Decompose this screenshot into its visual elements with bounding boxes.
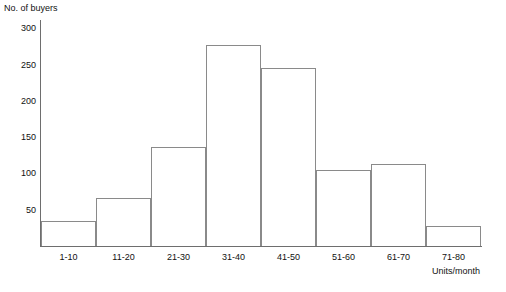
x-axis-tick-label: 61-70 <box>371 252 426 263</box>
x-axis-title: Units/month <box>400 266 480 277</box>
y-axis-tick-label: 300 <box>2 23 36 33</box>
y-axis-tick-label: 50 <box>2 205 36 215</box>
plot-area <box>41 20 481 246</box>
x-axis-tick-label: 31-40 <box>206 252 261 263</box>
bar <box>41 221 96 246</box>
bar <box>151 147 206 246</box>
x-axis-tick-label: 41-50 <box>261 252 316 263</box>
bar <box>206 45 261 246</box>
bar <box>261 68 316 246</box>
x-axis-line <box>40 246 482 247</box>
y-axis-tick-label: 200 <box>2 96 36 106</box>
bar <box>316 170 371 246</box>
x-axis-tick-label: 1-10 <box>41 252 96 263</box>
histogram-chart: No. of buyers 50100150200250300 Units/mo… <box>0 0 506 292</box>
x-axis-tick-label: 21-30 <box>151 252 206 263</box>
bar <box>426 226 481 246</box>
y-axis-tick-label: 150 <box>2 132 36 142</box>
bar <box>96 198 151 246</box>
x-axis-tick-label: 11-20 <box>96 252 151 263</box>
y-axis-tick-labels: 50100150200250300 <box>0 0 36 292</box>
y-axis-tick-label: 250 <box>2 60 36 70</box>
y-axis-tick-label: 100 <box>2 168 36 178</box>
x-axis-tick-label: 51-60 <box>316 252 371 263</box>
bar <box>371 164 426 246</box>
x-axis-tick-label: 71-80 <box>426 252 481 263</box>
